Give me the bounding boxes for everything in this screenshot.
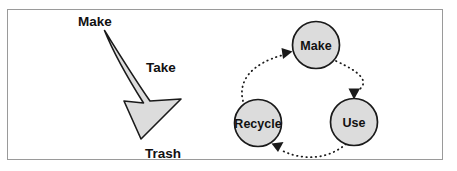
node-recycle[interactable]: Recycle: [234, 100, 281, 147]
label-make-linear: Make: [78, 14, 112, 29]
node-use-label: Use: [343, 116, 366, 130]
figure-container: Make Take Trash Make Use: [0, 0, 457, 171]
node-use[interactable]: Use: [331, 99, 378, 146]
node-make-label: Make: [300, 39, 331, 53]
label-trash: Trash: [145, 146, 181, 161]
node-make[interactable]: Make: [293, 22, 340, 69]
figure-border: [8, 10, 443, 160]
diagram-canvas: Make Take Trash Make Use: [0, 0, 457, 171]
label-take: Take: [146, 60, 176, 75]
node-recycle-label: Recycle: [234, 117, 281, 131]
